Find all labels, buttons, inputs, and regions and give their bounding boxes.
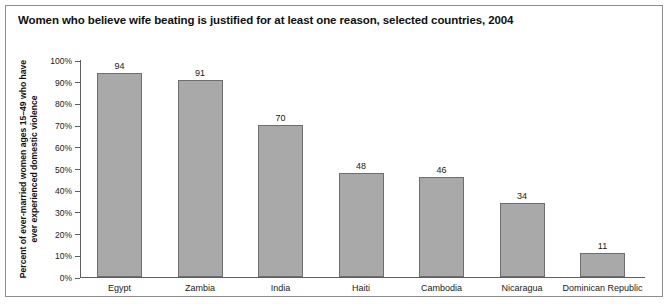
y-axis-tick-label: 50% (55, 165, 72, 175)
y-axis-tick-label: 60% (55, 143, 72, 153)
y-axis-tick-label: 40% (55, 186, 72, 196)
bar-value-label: 46 (419, 165, 464, 175)
y-axis-tick (75, 278, 80, 279)
bar[interactable] (500, 203, 545, 277)
chart-title: Women who believe wife beating is justif… (18, 14, 513, 26)
y-axis-tick-label: 70% (55, 121, 72, 131)
bar-value-label: 11 (580, 241, 625, 251)
bar-value-label: 70 (258, 113, 303, 123)
y-axis-tick (75, 169, 80, 170)
bar[interactable] (339, 173, 384, 277)
y-axis-tick (75, 191, 80, 192)
bar[interactable] (178, 80, 223, 277)
bar[interactable] (580, 253, 625, 277)
y-axis-tick (75, 82, 80, 83)
y-axis-tick (75, 147, 80, 148)
chart-figure: Women who believe wife beating is justif… (5, 5, 663, 297)
y-axis-tick-label: 100% (50, 56, 72, 66)
plot-area: 94917048463411 (80, 60, 652, 278)
bar-value-label: 91 (178, 68, 223, 78)
x-axis-category-label: Dominican Republic (543, 283, 663, 293)
y-axis-tick-label: 0% (60, 273, 72, 283)
y-axis-tick (75, 126, 80, 127)
y-axis-tick-label: 30% (55, 208, 72, 218)
y-axis-tick-label: 20% (55, 230, 72, 240)
y-axis-tick-label: 10% (55, 251, 72, 261)
y-axis-tick (75, 212, 80, 213)
bar-value-label: 48 (339, 161, 384, 171)
bar[interactable] (97, 73, 142, 277)
x-axis-category-labels: EgyptZambiaIndiaHaitiCambodiaNicaraguaDo… (80, 283, 652, 297)
x-axis-line (80, 277, 645, 278)
bar[interactable] (258, 125, 303, 277)
y-axis-tick (75, 61, 80, 62)
y-axis-tick (75, 104, 80, 105)
y-axis-tick (75, 234, 80, 235)
y-axis-tick-labels: 0%10%20%30%40%50%60%70%80%90%100% (6, 60, 72, 278)
bar[interactable] (419, 177, 464, 277)
bar-value-label: 94 (97, 61, 142, 71)
y-axis-tick (75, 256, 80, 257)
y-axis-line (80, 60, 81, 278)
y-axis-tick-label: 90% (55, 78, 72, 88)
bar-value-label: 34 (500, 191, 545, 201)
y-axis-tick-label: 80% (55, 99, 72, 109)
